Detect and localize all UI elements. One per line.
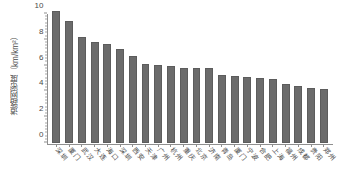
bar-slot bbox=[228, 14, 241, 143]
x-label-slot: 天津 bbox=[139, 147, 152, 189]
bar-slot bbox=[190, 14, 203, 143]
bar bbox=[103, 44, 111, 143]
bar-slot bbox=[203, 14, 216, 143]
bar-slot bbox=[63, 14, 76, 143]
y-tick-label: 10 bbox=[35, 1, 47, 10]
x-tick-label: 郑州 bbox=[322, 147, 336, 162]
x-label-slot: 西安 bbox=[126, 147, 139, 189]
bar-slot bbox=[292, 14, 305, 143]
bar-slot bbox=[177, 14, 190, 143]
bar-slot bbox=[75, 14, 88, 143]
bar-slot bbox=[254, 14, 267, 143]
bar bbox=[294, 86, 302, 143]
x-label-slot: 上海 bbox=[266, 147, 279, 189]
bar bbox=[231, 76, 239, 143]
x-label-slot: 深圳 bbox=[50, 147, 63, 189]
bar-slot bbox=[216, 14, 229, 143]
bar-slot bbox=[126, 14, 139, 143]
bar bbox=[142, 64, 150, 143]
x-label-slot: 北京 bbox=[190, 147, 203, 189]
x-label-slot: 海口 bbox=[101, 147, 114, 189]
bar bbox=[167, 66, 175, 143]
x-label-slot: 杭州 bbox=[165, 147, 178, 189]
bar-slot bbox=[305, 14, 318, 143]
bar-slot bbox=[101, 14, 114, 143]
x-label-slot: 宁波 bbox=[241, 147, 254, 189]
bar bbox=[116, 49, 124, 143]
bar bbox=[320, 89, 328, 143]
y-axis-title: 道路网密度（km/km²） bbox=[8, 0, 24, 148]
bar bbox=[218, 75, 226, 143]
bar bbox=[282, 84, 290, 143]
bar bbox=[52, 11, 60, 143]
x-label-slot: 济南 bbox=[203, 147, 216, 189]
bar bbox=[65, 21, 73, 143]
x-label-slot: 大连 bbox=[88, 147, 101, 189]
x-label-slot: 广州 bbox=[152, 147, 165, 189]
x-label-slot: 厦门 bbox=[63, 147, 76, 189]
bar bbox=[91, 42, 99, 143]
bar bbox=[256, 78, 264, 143]
bar-slot bbox=[152, 14, 165, 143]
bar-slot bbox=[279, 14, 292, 143]
bar bbox=[205, 68, 213, 143]
bar-slot bbox=[50, 14, 63, 143]
bar bbox=[193, 68, 201, 143]
x-label-slot: 贵阳 bbox=[305, 147, 318, 189]
bar bbox=[243, 77, 251, 143]
bar-slot bbox=[88, 14, 101, 143]
bar bbox=[307, 88, 315, 143]
bar bbox=[180, 68, 188, 143]
x-label-slot: 成都 bbox=[292, 147, 305, 189]
x-label-slot: 福州 bbox=[279, 147, 292, 189]
x-label-slot: 郑州 bbox=[317, 147, 330, 189]
bar-slot bbox=[241, 14, 254, 143]
bar-slot bbox=[139, 14, 152, 143]
bar-slot bbox=[165, 14, 178, 143]
x-label-slot: 深圳 bbox=[114, 147, 127, 189]
bar bbox=[78, 37, 86, 143]
x-label-slot: 厦门 bbox=[228, 147, 241, 189]
road-network-density-bar-chart: 道路网密度（km/km²） 0246810 深圳厦门武汉大连海口深圳西安天津广州… bbox=[0, 0, 339, 189]
bar bbox=[129, 56, 137, 143]
x-label-slot: 重庆 bbox=[177, 147, 190, 189]
bar bbox=[269, 79, 277, 143]
bar-slot bbox=[266, 14, 279, 143]
bar-slot bbox=[317, 14, 330, 143]
bar bbox=[154, 65, 162, 143]
plot-area: 0246810 bbox=[47, 14, 332, 143]
x-label-slot: 武汉 bbox=[75, 147, 88, 189]
bar-slot bbox=[114, 14, 127, 143]
x-axis-labels: 深圳厦门武汉大连海口深圳西安天津广州杭州重庆北京济南青岛厦门宁波合肥上海福州成都… bbox=[47, 147, 332, 189]
bar-series bbox=[47, 14, 332, 143]
x-label-slot: 青岛 bbox=[216, 147, 229, 189]
x-label-slot: 合肥 bbox=[254, 147, 267, 189]
